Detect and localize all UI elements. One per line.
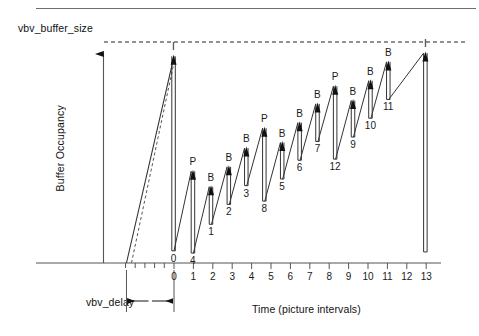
picture-number-label: 3 [238,188,254,199]
picture-removal-pulses [171,52,429,254]
picture-type-label: I [167,41,181,52]
picture-number-label: 8 [256,203,272,214]
picture-type-label: I [418,38,432,49]
x-tick-label: 0 [166,271,182,282]
picture-number-label: 7 [309,143,325,154]
picture-type-label: P [328,71,342,82]
x-tick-label: 12 [399,271,415,282]
picture-number-label: 1 [203,226,219,237]
picture-number-label: 9 [345,139,361,150]
x-axis [36,263,441,269]
picture-number-label: 11 [380,101,396,112]
picture-number-label: 5 [274,181,290,192]
picture-type-label: B [222,152,236,163]
x-tick-label: 2 [205,271,221,282]
vbv-buffer-occupancy-figure: vbv_buffer_size Buffer Occupancy Time (p… [0,0,479,336]
x-tick-label: 6 [282,271,298,282]
x-tick-label: 5 [263,271,279,282]
picture-type-label: P [186,156,200,167]
picture-number-label: 0 [166,253,182,264]
x-tick-label: 13 [418,271,434,282]
picture-number-label: 2 [221,206,237,217]
x-tick-label: 4 [244,271,260,282]
picture-number-label: 12 [327,161,343,172]
x-tick-label: 7 [302,271,318,282]
picture-type-label: B [293,108,307,119]
picture-type-label: B [381,47,395,58]
picture-type-label: B [275,128,289,139]
x-tick-label: 11 [379,271,395,282]
x-tick-label: 10 [360,271,376,282]
x-tick-label: 9 [341,271,357,282]
x-tick-label: 8 [321,271,337,282]
x-tick-label: 1 [185,271,201,282]
plot-area [0,0,479,336]
picture-type-label: B [204,172,218,183]
picture-type-label: P [257,113,271,124]
picture-number-label: 6 [292,162,308,173]
initial-fill-ramp [126,56,174,263]
picture-type-label: B [346,86,360,97]
picture-type-label: B [363,66,377,77]
x-tick-label: 3 [224,271,240,282]
picture-type-label: B [310,89,324,100]
picture-type-label: B [239,133,253,144]
picture-number-label: 4 [185,255,201,266]
picture-number-label: 10 [362,120,378,131]
